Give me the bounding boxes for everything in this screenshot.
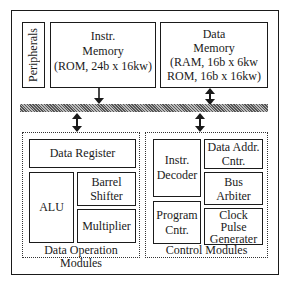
clock-pulse-generator-block: Clock Pulse Generater [204, 208, 263, 245]
multiplier-block: Multiplier [77, 209, 136, 243]
clock-pulse-generator-label: Clock Pulse Generater [210, 209, 257, 245]
instr-decoder-label: Instr. Decoder [157, 153, 198, 183]
bidirectional-arrow-icon [70, 113, 84, 132]
data-memory-block: Data Memory (RAM, 16b x 6kw ROM, 16b x 1… [160, 22, 268, 88]
bus-arbiter-label: Bus Arbiter [216, 175, 251, 203]
instr-memory-label: Instr. Memory (ROM, 24b x 16kw) [54, 29, 152, 74]
alu-block: ALU [29, 172, 74, 243]
bidirectional-arrow-icon [193, 113, 207, 132]
data-register-block: Data Register [29, 139, 136, 168]
bus-arbiter-block: Bus Arbiter [204, 172, 263, 205]
peripherals-label: Peripherals [27, 28, 40, 82]
instr-memory-block: Instr. Memory (ROM, 24b x 16kw) [50, 22, 156, 88]
data-addr-counter-block: Data Addr. Cntr. [204, 139, 263, 169]
program-counter-block: Program Cntr. [153, 201, 201, 244]
multiplier-label: Multiplier [82, 220, 131, 233]
barrel-shifter-block: Barrel Shifter [77, 172, 136, 206]
data-register-label: Data Register [50, 147, 116, 160]
program-counter-label: Program Cntr. [156, 208, 197, 238]
alu-label: ALU [39, 201, 64, 214]
peripherals-block: Peripherals [22, 22, 45, 88]
barrel-shifter-label: Barrel Shifter [90, 175, 123, 203]
instr-decoder-block: Instr. Decoder [153, 139, 201, 197]
system-bus [20, 104, 268, 112]
data-memory-label: Data Memory (RAM, 16b x 6kw ROM, 16b x 1… [167, 27, 261, 83]
control-modules-label: Control Modules [145, 244, 268, 257]
bidirectional-arrow-icon [203, 88, 217, 105]
data-operation-modules-label: Data Operation Modules [22, 244, 140, 270]
arrow-down-icon [92, 88, 106, 105]
data-addr-counter-label: Data Addr. Cntr. [208, 140, 260, 168]
